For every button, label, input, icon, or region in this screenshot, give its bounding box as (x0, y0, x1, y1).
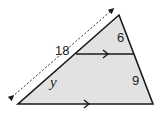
triangle (18, 15, 153, 104)
label-y: y (48, 74, 57, 90)
label-18: 18 (55, 43, 69, 58)
label-6: 6 (117, 30, 124, 45)
label-9: 9 (132, 73, 139, 88)
triangle-diagram: 18 6 y 9 (0, 0, 162, 116)
